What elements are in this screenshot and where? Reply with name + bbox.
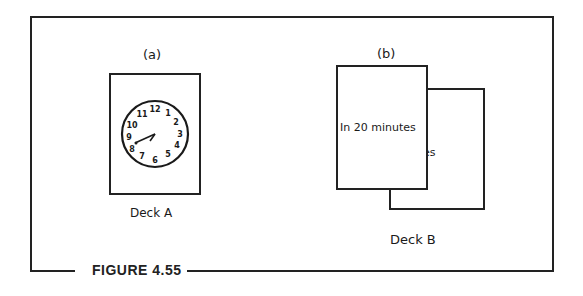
svg-text:7: 7 — [139, 152, 145, 161]
frame-left-border — [30, 16, 32, 272]
deck-a-label: Deck A — [130, 206, 172, 220]
panel-a-label: (a) — [143, 47, 161, 62]
figure-caption: FIGURE 4.55 — [92, 262, 182, 278]
svg-text:5: 5 — [165, 150, 171, 159]
panel-b-label: (b) — [377, 46, 395, 61]
svg-text:3: 3 — [177, 130, 183, 139]
svg-text:4: 4 — [174, 141, 180, 150]
svg-text:8: 8 — [129, 145, 135, 154]
frame-top-border — [30, 16, 554, 18]
frame-right-border — [552, 16, 554, 272]
deck-b-label: Deck B — [390, 232, 436, 247]
frame-bottom-border-right — [187, 270, 554, 272]
svg-text:11: 11 — [136, 110, 148, 119]
svg-text:12: 12 — [149, 105, 160, 114]
clock-face-icon: 12 1 2 3 4 5 6 7 8 9 10 11 — [109, 73, 201, 195]
deck-b-front-card: In 20 minutes — [336, 65, 428, 190]
front-card-text: In 20 minutes — [340, 121, 416, 134]
svg-text:1: 1 — [165, 109, 171, 118]
svg-text:10: 10 — [126, 121, 138, 130]
frame-bottom-border-left — [30, 270, 75, 272]
svg-text:6: 6 — [152, 156, 158, 165]
svg-text:9: 9 — [126, 133, 132, 142]
svg-text:2: 2 — [173, 118, 179, 127]
